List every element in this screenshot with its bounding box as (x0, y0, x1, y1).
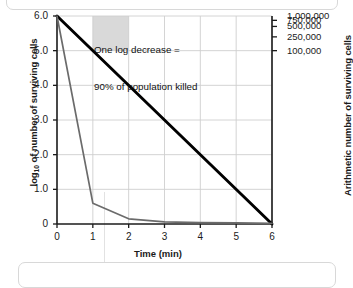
right-tick-label: 500,000 (287, 21, 321, 31)
left-tick-label: 5.0 (20, 46, 48, 56)
right-tick-label: 100,000 (287, 46, 321, 56)
left-axis-title-text: of number of surviving cells (28, 39, 39, 165)
left-tick-label: 6.0 (20, 11, 48, 21)
x-axis-title: Time (min) (58, 248, 258, 259)
left-tick-label: 2.0 (20, 150, 48, 160)
x-tick-label: 1 (85, 231, 101, 242)
x-tick-label: 3 (157, 231, 173, 242)
x-tick-label: 0 (49, 231, 65, 242)
left-tick-label: 3.0 (20, 115, 48, 125)
left-axis-title-subscript: 10 (33, 165, 40, 172)
right-tick-label: 250,000 (287, 32, 321, 42)
one-log-decrease-annotation: One log decrease = 90% of population kil… (94, 19, 198, 118)
left-tick-label: 0 (20, 219, 48, 229)
x-tick-label: 4 (192, 231, 208, 242)
x-tick-label: 2 (121, 231, 137, 242)
annotation-line-2: 90% of population killed (94, 81, 198, 93)
x-tick-label: 5 (228, 231, 244, 242)
annotation-line-1: One log decrease = (94, 44, 198, 56)
right-axis-title: Arithmetic number of surviving cells (342, 16, 353, 216)
left-tick-label: 1.0 (20, 184, 48, 194)
left-tick-label: 4.0 (20, 80, 48, 90)
x-tick-label: 6 (264, 231, 280, 242)
